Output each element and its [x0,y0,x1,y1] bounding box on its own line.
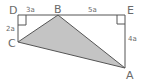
length-label-db: 3a [26,6,35,14]
length-label-be: 5a [88,6,97,14]
right-angle-marker-d [18,15,26,25]
point-label-c: C [8,37,16,50]
point-label-d: D [9,4,17,17]
length-label-dc: 2a [6,25,15,33]
point-label-b: B [54,3,62,16]
point-label-e: E [127,4,134,17]
right-angle-marker-e [117,15,125,24]
point-label-a: A [126,69,134,80]
diagram-canvas: D B E C A 3a 5a 2a 4a [0,0,142,80]
geometry-diagram: D B E C A 3a 5a 2a 4a [0,0,142,80]
length-label-ea: 4a [128,35,137,43]
shaded-triangle-abc [18,15,125,68]
